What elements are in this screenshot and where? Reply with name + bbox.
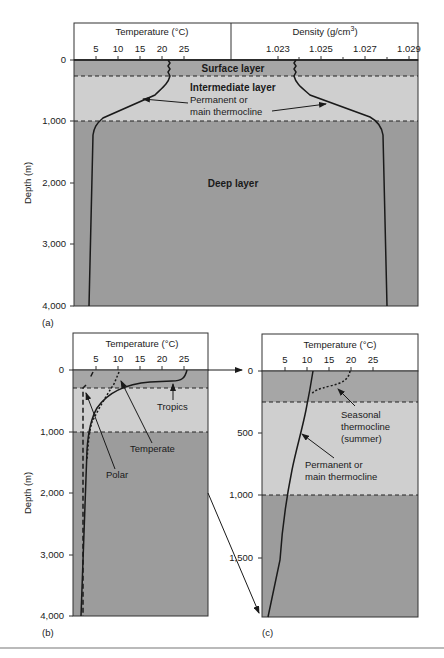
svg-text:5: 5 xyxy=(282,354,287,365)
svg-text:2,000: 2,000 xyxy=(42,177,66,188)
svg-text:2,000: 2,000 xyxy=(40,487,64,498)
svg-text:15: 15 xyxy=(135,43,146,54)
svg-text:3,000: 3,000 xyxy=(42,238,66,249)
svg-text:20: 20 xyxy=(346,354,357,365)
deep-layer-band xyxy=(74,121,418,306)
density-axis-title: Density (g/cm3) xyxy=(292,25,357,37)
depth-ticks-a: 0 1,000 2,000 3,000 4,000 xyxy=(42,54,74,311)
svg-text:1.025: 1.025 xyxy=(309,43,333,54)
svg-text:0: 0 xyxy=(59,364,64,375)
svg-text:10: 10 xyxy=(113,43,124,54)
svg-text:15: 15 xyxy=(324,354,335,365)
svg-text:1,000: 1,000 xyxy=(42,115,66,126)
surface-layer-label: Surface layer xyxy=(202,63,265,74)
panel-c: Temperature (°C) 5 10 15 20 25 0 500 1,0… xyxy=(229,334,418,638)
temp-axis-title-a: Temperature (°C) xyxy=(116,26,189,37)
svg-text:15: 15 xyxy=(135,353,146,364)
seasonal-label-line1: Seasonal xyxy=(341,409,381,420)
svg-text:5: 5 xyxy=(93,353,98,364)
svg-text:1.023: 1.023 xyxy=(266,43,290,54)
permanent-label-line2: main thermocline xyxy=(305,471,377,482)
polar-label: Polar xyxy=(106,469,128,480)
deep-layer-label: Deep layer xyxy=(208,178,259,189)
svg-text:0: 0 xyxy=(248,365,253,376)
svg-text:4,000: 4,000 xyxy=(40,610,64,621)
depth-ticks-b: 0 1,000 2,000 3,000 4,000 xyxy=(40,364,73,621)
svg-text:1,500: 1,500 xyxy=(229,552,253,563)
svg-text:4,000: 4,000 xyxy=(42,300,66,311)
svg-text:1,000: 1,000 xyxy=(40,426,64,437)
intermediate-layer-label: Intermediate layer xyxy=(190,82,276,93)
svg-text:3,000: 3,000 xyxy=(40,549,64,560)
thermocline-annotation-line1: Permanent or xyxy=(190,94,248,105)
svg-text:5: 5 xyxy=(93,43,98,54)
panel-b-caption: (b) xyxy=(42,627,54,638)
svg-text:20: 20 xyxy=(157,43,168,54)
svg-text:0: 0 xyxy=(61,54,66,65)
panel-a-caption: (a) xyxy=(42,317,54,328)
temperate-label: Temperate xyxy=(130,443,175,454)
svg-text:1.027: 1.027 xyxy=(353,43,377,54)
svg-text:10: 10 xyxy=(302,354,313,365)
tropics-label: Tropics xyxy=(157,401,188,412)
depth-axis-title-b: Depth (m) xyxy=(22,472,33,514)
svg-text:25: 25 xyxy=(179,43,190,54)
svg-text:1.029: 1.029 xyxy=(397,43,421,54)
seasonal-label-line3: (summer) xyxy=(341,433,382,444)
depth-ticks-c: 0 500 1,000 1,500 xyxy=(229,365,262,563)
svg-text:1,000: 1,000 xyxy=(229,489,253,500)
svg-text:25: 25 xyxy=(368,354,379,365)
permanent-label-line1: Permanent or xyxy=(305,459,363,470)
svg-text:20: 20 xyxy=(157,353,168,364)
svg-text:10: 10 xyxy=(113,353,124,364)
temp-axis-title-b: Temperature (°C) xyxy=(106,338,179,349)
panel-c-caption: (c) xyxy=(262,627,273,638)
seasonal-label-line2: thermocline xyxy=(341,421,390,432)
thermocline-annotation-line2: main thermocline xyxy=(190,106,262,117)
svg-text:25: 25 xyxy=(179,353,190,364)
temp-axis-title-c: Temperature (°C) xyxy=(304,339,377,350)
panel-b: Temperature (°C) 5 10 15 20 25 0 1,000 2… xyxy=(22,333,208,638)
panel-a: Temperature (°C) Density (g/cm3) 5 10 15… xyxy=(22,23,421,328)
svg-text:500: 500 xyxy=(237,427,253,438)
depth-axis-title-a: Depth (m) xyxy=(22,162,33,204)
